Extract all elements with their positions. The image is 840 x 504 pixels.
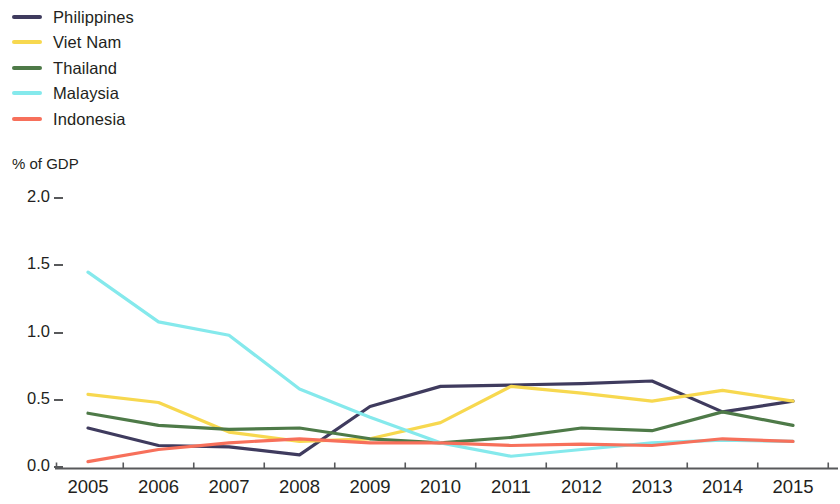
y-axis-tick-dash (54, 399, 63, 401)
y-axis-tick-dash (54, 264, 63, 266)
x-axis-tick-label: 2006 (124, 476, 194, 498)
line-chart-figure: Philippines Viet Nam Thailand Malaysia I… (0, 0, 840, 504)
x-axis-tick-label: 2011 (476, 476, 546, 498)
x-axis-tick-label: 2005 (53, 476, 123, 498)
plot-svg (0, 0, 840, 504)
x-axis-tick-label: 2009 (335, 476, 405, 498)
x-axis-tick-label: 2007 (194, 476, 264, 498)
y-axis-tick-label: 1.5 (8, 254, 50, 273)
x-axis-tick-label: 2014 (688, 476, 758, 498)
y-axis-tick-dash (54, 197, 63, 199)
plot-area: 0.00.51.01.52.0 200520062007200820092010… (0, 0, 840, 504)
y-axis-tick-label: 2.0 (8, 187, 50, 206)
series-line-indonesia (88, 439, 793, 462)
series-line-viet-nam (88, 386, 793, 441)
x-axis-tick-label: 2013 (617, 476, 687, 498)
x-axis-tick-label: 2008 (265, 476, 335, 498)
x-axis-tick-label: 2010 (406, 476, 476, 498)
y-axis-tick-dash (54, 466, 63, 468)
y-axis-tick-label: 0.5 (8, 389, 50, 408)
series-paths-group (88, 272, 793, 462)
y-axis-tick-dash (54, 332, 63, 334)
y-axis-tick-label: 0.0 (8, 456, 50, 475)
axis-group (55, 463, 838, 469)
x-axis-tick-label: 2012 (547, 476, 617, 498)
y-axis-tick-label: 1.0 (8, 322, 50, 341)
x-axis-tick-label: 2015 (758, 476, 828, 498)
